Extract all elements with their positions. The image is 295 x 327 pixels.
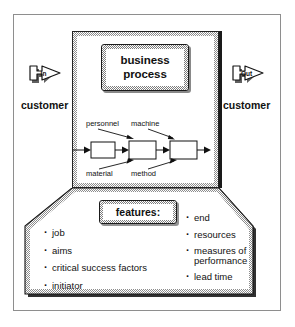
feature-item: critical success factors: [44, 263, 179, 273]
features-list-right: end resources measures of performance le…: [186, 213, 272, 289]
business-process-box: businessprocess: [101, 44, 189, 91]
features-list-left: job aims critical success factors initia…: [44, 228, 179, 298]
flow-label-method: method: [131, 169, 156, 178]
flow-label-machine: machine: [131, 119, 159, 128]
business-process-line2: process: [123, 68, 166, 80]
output-arrow-icon: Out: [232, 60, 266, 86]
flow-label-personnel: personnel: [86, 119, 119, 128]
feature-item: initiator: [44, 281, 179, 291]
input-arrow-icon: In: [29, 60, 63, 86]
feature-item: aims: [44, 246, 179, 256]
features-title: features:: [116, 206, 160, 218]
input-arrow-label: In: [29, 60, 63, 86]
process-flow-chain: personnel machine material method: [72, 112, 219, 188]
feature-item: resources: [186, 230, 272, 240]
customer-label-right: customer: [223, 99, 270, 111]
feature-item: job: [44, 228, 179, 238]
feature-item: lead time: [186, 272, 272, 282]
customer-label-left: customer: [21, 99, 68, 111]
business-process-label: businessprocess: [120, 54, 169, 81]
business-process-line1: business: [120, 54, 169, 66]
feature-item: end: [186, 213, 272, 223]
output-arrow-label: Out: [232, 60, 266, 86]
features-title-box: features:: [99, 200, 177, 224]
flow-label-material: material: [86, 169, 113, 178]
business-process-diagram: businessprocess In Out customer customer: [0, 0, 295, 327]
feature-item: measures of performance: [186, 246, 272, 265]
